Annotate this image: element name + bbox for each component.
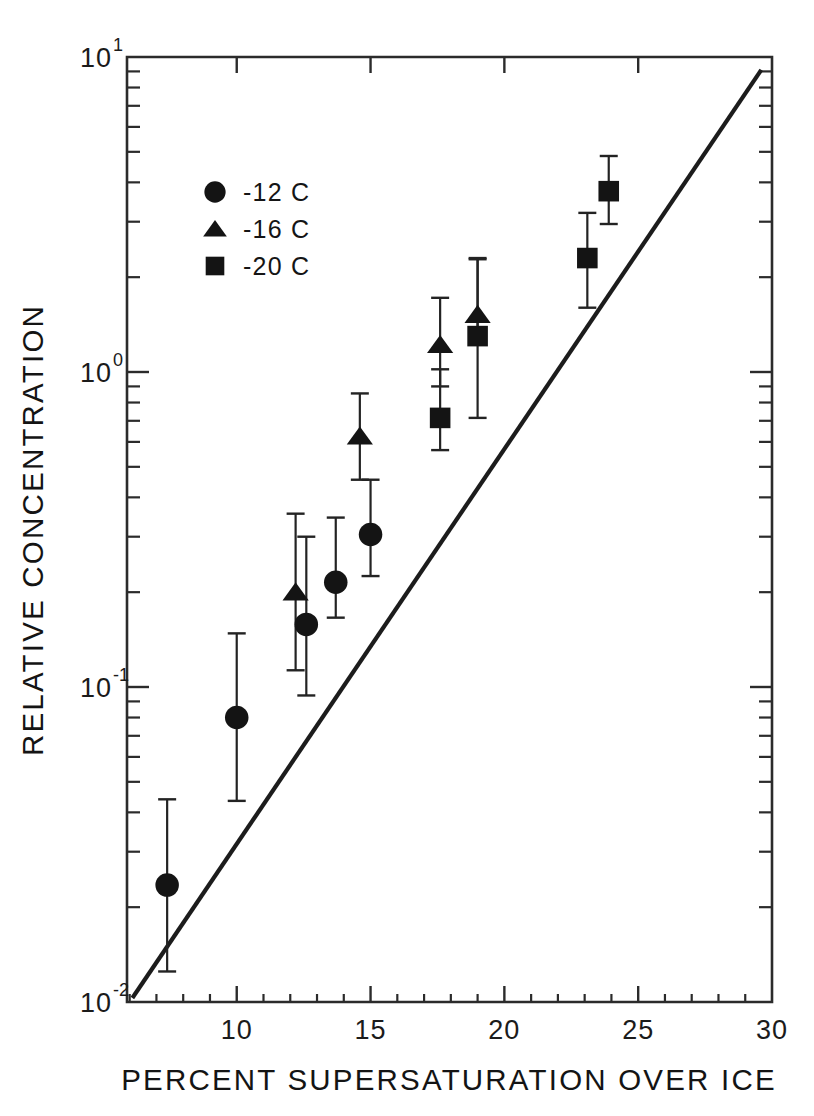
y-tick-label-exponent: 0 <box>113 350 123 370</box>
circle-data-marker <box>359 523 383 547</box>
y-tick-labels-group: 10-210-1100101 <box>80 35 129 1018</box>
circle-data-marker <box>295 613 319 637</box>
square-data-marker <box>430 408 451 429</box>
x-tick-labels-group: 1015202530 <box>221 1015 788 1045</box>
triangle-data-marker <box>283 582 309 600</box>
y-tick-label-exponent: -2 <box>113 980 129 1000</box>
y-tick-label-mantissa: 10 <box>80 673 112 703</box>
square-data-marker <box>467 326 488 347</box>
y-tick-label-exponent: -1 <box>113 665 129 685</box>
y-tick-label-mantissa: 10 <box>80 43 112 73</box>
data-markers-group <box>155 181 619 897</box>
y-tick-label-exponent: 1 <box>113 35 123 55</box>
triangle-data-marker <box>347 426 373 444</box>
x-tick-label: 20 <box>488 1015 520 1045</box>
legend-label: -16 C <box>243 215 310 243</box>
x-axis-title: PERCENT SUPERSATURATION OVER ICE <box>121 1063 777 1096</box>
error-bars-group <box>158 156 618 971</box>
y-tick-label: 10-1 <box>80 665 129 703</box>
circle-data-marker <box>155 873 179 897</box>
y-tick-label: 10-2 <box>80 980 129 1018</box>
chart-legend: -12 C-16 C-20 C <box>203 178 310 280</box>
legend-square-marker <box>206 257 225 276</box>
legend-label: -20 C <box>243 252 310 280</box>
circle-data-marker <box>225 706 249 730</box>
y-tick-label: 101 <box>80 35 123 73</box>
y-axis-title: RELATIVE CONCENTRATION <box>16 304 49 756</box>
y-tick-label-mantissa: 10 <box>80 988 112 1018</box>
chart-canvas: 1015202530 10-210-1100101 -12 C-16 C-20 … <box>0 0 814 1116</box>
triangle-data-marker <box>427 335 453 353</box>
figure-container: 1015202530 10-210-1100101 -12 C-16 C-20 … <box>0 0 814 1116</box>
triangle-data-marker <box>464 305 490 323</box>
regression-line <box>132 70 761 998</box>
square-data-marker <box>598 181 619 202</box>
x-tick-label: 30 <box>756 1015 788 1045</box>
x-tick-label: 15 <box>355 1015 387 1045</box>
x-tick-label: 10 <box>221 1015 253 1045</box>
y-tick-label: 100 <box>80 350 123 388</box>
fit-line-group <box>132 70 761 998</box>
legend-triangle-marker <box>203 220 227 236</box>
square-data-marker <box>577 248 598 269</box>
x-tick-label: 25 <box>622 1015 654 1045</box>
circle-data-marker <box>324 571 348 595</box>
legend-label: -12 C <box>243 178 310 206</box>
y-tick-label-mantissa: 10 <box>80 358 112 388</box>
legend-circle-marker <box>204 181 225 202</box>
